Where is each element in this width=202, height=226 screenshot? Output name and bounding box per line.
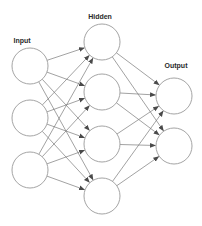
edge-h4-o2 bbox=[117, 157, 159, 186]
edge-i2-h1 bbox=[42, 55, 89, 105]
hidden-node-h3 bbox=[84, 126, 120, 162]
output-node-o2 bbox=[156, 128, 192, 164]
input-node-i3 bbox=[12, 152, 48, 188]
hidden-node-h1 bbox=[84, 24, 120, 60]
hidden-layer-label: Hidden bbox=[88, 13, 112, 20]
neural-network-diagram: Input Hidden Output bbox=[0, 0, 202, 226]
edge-h3-o2 bbox=[120, 145, 156, 146]
input-node-i1 bbox=[12, 48, 48, 84]
output-layer-label: Output bbox=[165, 62, 189, 70]
edge-i2-h2 bbox=[47, 98, 85, 112]
edge-i3-h2 bbox=[42, 106, 89, 157]
edge-i3-h3 bbox=[47, 150, 85, 164]
input-layer-label: Input bbox=[13, 37, 31, 45]
connections bbox=[39, 48, 164, 190]
neurons bbox=[12, 24, 192, 214]
input-node-i2 bbox=[12, 100, 48, 136]
edge-h1-o1 bbox=[116, 53, 159, 85]
edge-i1-h1 bbox=[47, 48, 84, 60]
output-node-o1 bbox=[156, 78, 192, 114]
edge-i3-h4 bbox=[47, 176, 85, 190]
hidden-node-h2 bbox=[84, 74, 120, 110]
hidden-node-h4 bbox=[84, 178, 120, 214]
